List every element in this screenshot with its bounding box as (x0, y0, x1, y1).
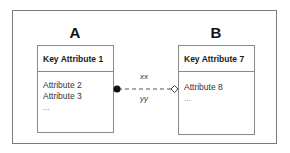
filled-circle-marker-icon (113, 85, 120, 92)
relationship-label-bottom: yy (140, 94, 148, 103)
open-diamond-marker-icon (171, 86, 178, 93)
relationship-label-top: xx (140, 72, 148, 81)
